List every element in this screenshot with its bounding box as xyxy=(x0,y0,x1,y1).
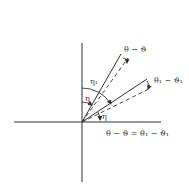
lower-small-angle-arc xyxy=(147,81,149,89)
eta-upper-label: η xyxy=(85,94,90,103)
eta-lower-label: η xyxy=(102,112,107,121)
angle-diagram: θ − ϑ θ₁ − ϑ₁ η₁ η η θ − ϑ = θ₁ − ϑ₁ xyxy=(0,0,189,194)
upper-angle-label: θ − ϑ xyxy=(124,45,147,54)
eta-lower-arc xyxy=(98,112,100,120)
eta1-label: η₁ xyxy=(90,77,98,86)
lower-dashed-ray xyxy=(82,88,151,122)
lower-angle-label: θ₁ − ϑ₁ xyxy=(154,76,183,85)
equation-label: θ − ϑ = θ₁ − ϑ₁ xyxy=(106,129,169,138)
